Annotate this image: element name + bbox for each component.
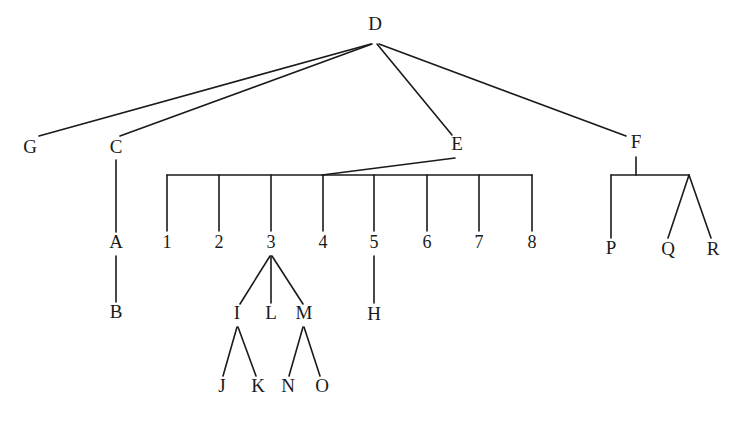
node-D: D bbox=[368, 13, 382, 34]
node-n4: 4 bbox=[319, 232, 328, 252]
node-F: F bbox=[631, 131, 642, 152]
node-L: L bbox=[265, 302, 277, 323]
node-I: I bbox=[234, 302, 240, 323]
node-A: A bbox=[109, 231, 123, 252]
node-O: O bbox=[315, 375, 329, 396]
tree-nodes: DGCEFAB12345678HILMJKNOPQR bbox=[23, 13, 720, 396]
node-M: M bbox=[296, 302, 313, 323]
node-R: R bbox=[707, 238, 720, 259]
node-Q: Q bbox=[661, 238, 675, 259]
tree-diagram: DGCEFAB12345678HILMJKNOPQR bbox=[0, 0, 740, 423]
node-n7: 7 bbox=[475, 232, 484, 252]
edge-M-O bbox=[304, 327, 320, 376]
node-K: K bbox=[251, 375, 265, 396]
node-G: G bbox=[23, 136, 37, 157]
node-B: B bbox=[110, 301, 123, 322]
node-n2: 2 bbox=[215, 232, 224, 252]
edge-I-K bbox=[238, 327, 256, 376]
edge-E-bracket bbox=[322, 158, 455, 175]
edge-M-N bbox=[289, 327, 303, 376]
tree-edges bbox=[39, 44, 711, 376]
node-H: H bbox=[367, 303, 381, 324]
edge-D-C bbox=[120, 44, 372, 136]
node-n6: 6 bbox=[423, 232, 432, 252]
edge-D-G bbox=[39, 44, 371, 136]
node-n1: 1 bbox=[163, 232, 172, 252]
node-P: P bbox=[606, 237, 617, 258]
node-n5: 5 bbox=[370, 232, 379, 252]
edge-D-F bbox=[379, 44, 626, 136]
node-n3: 3 bbox=[267, 232, 276, 252]
edge-3-I bbox=[240, 256, 270, 304]
node-N: N bbox=[281, 375, 295, 396]
edge-F-R bbox=[689, 175, 711, 238]
node-J: J bbox=[218, 375, 225, 396]
node-E: E bbox=[451, 133, 463, 154]
edge-3-M bbox=[272, 256, 303, 304]
edge-F-Q bbox=[668, 175, 689, 238]
node-n8: 8 bbox=[528, 232, 537, 252]
edge-I-J bbox=[223, 327, 237, 376]
node-C: C bbox=[110, 136, 123, 157]
